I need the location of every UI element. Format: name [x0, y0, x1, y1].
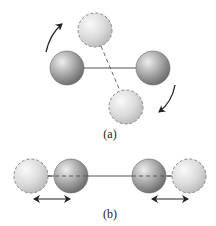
panel-a-label: (a) [103, 127, 116, 141]
panel-b-vibration: (b) [14, 159, 206, 221]
panel-a-rotation: (a) [46, 13, 175, 141]
ghost-atom-right [172, 159, 206, 193]
ghost-atom-top [78, 13, 112, 47]
atom-right [136, 51, 170, 85]
atom-left [50, 51, 84, 85]
diatomic-molecule-diagram: (a) (b) [0, 0, 216, 226]
panel-b-label: (b) [103, 207, 117, 221]
curved-arrow-icon-top-left [46, 24, 62, 52]
ghost-atom-left [14, 159, 48, 193]
curved-arrow-icon-bottom-right [159, 85, 175, 112]
ghost-atom-bottom [109, 90, 143, 124]
